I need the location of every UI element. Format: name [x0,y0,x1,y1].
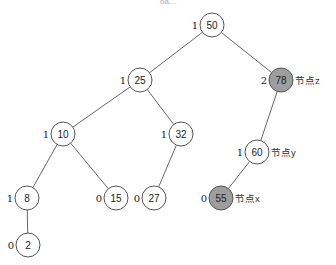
tree-node-50: 501 [192,13,224,37]
balance-factor: 1 [43,129,49,140]
tree-node-25: 251 [120,68,152,92]
balance-factor: 0 [134,193,140,204]
node-key: 55 [215,193,227,204]
tree-node-27: 270 [134,186,166,210]
edge-78-60 [261,91,277,140]
tree-node-10: 101 [43,122,75,146]
edge-60-55 [228,161,249,188]
balance-factor: 0 [8,240,14,251]
node-key: 25 [134,75,146,86]
tree-node-60: 601节点y [237,140,296,164]
edge-10-8 [33,144,57,187]
edge-25-32 [147,90,173,125]
node-tag-label: 节点x [235,193,260,204]
title-fragment: ба… [160,0,177,6]
edge-25-10 [73,87,130,127]
balance-factor: 1 [7,193,13,204]
balance-factor: 2 [261,75,267,86]
edge-32-27 [159,145,177,187]
tree-node-15: 150 [96,186,128,210]
node-key: 50 [206,20,218,31]
tree-node-55: 550节点x [201,186,260,210]
node-key: 10 [57,129,69,140]
balance-factor: 0 [96,193,102,204]
tree-nodes: 501251782节点z101321601节点y81150270550节点x20 [7,13,320,257]
balance-factor: 1 [120,75,126,86]
balance-factor: 1 [192,20,198,31]
node-key: 8 [24,193,30,204]
tree-node-78: 782节点z [261,68,320,92]
tree-node-2: 20 [8,233,40,257]
balance-factor: 1 [161,129,167,140]
node-tag-label: 节点z [295,75,320,86]
edge-50-78 [221,32,271,72]
balance-factor: 1 [237,147,243,158]
tree-node-8: 81 [7,186,39,210]
tree-node-32: 321 [161,122,193,146]
node-key: 32 [175,129,187,140]
node-key: 78 [275,75,287,86]
edge-50-25 [150,32,203,72]
node-key: 15 [110,193,122,204]
edge-10-15 [71,143,109,189]
avl-tree-diagram: ба… 501251782节点z101321601节点y81150270550节… [0,0,336,265]
node-key: 60 [251,147,263,158]
node-key: 27 [148,193,160,204]
node-key: 2 [25,240,31,251]
balance-factor: 0 [201,193,207,204]
node-tag-label: 节点y [271,147,296,158]
